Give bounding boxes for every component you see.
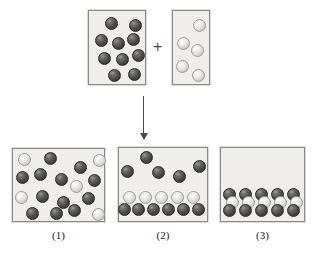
dark-sphere: [36, 190, 49, 203]
dark-sphere: [140, 151, 153, 164]
light-sphere: [18, 153, 31, 166]
dark-sphere: [82, 192, 95, 205]
light-sphere: [177, 37, 190, 50]
dark-sphere: [105, 17, 118, 30]
dark-sphere: [88, 174, 101, 187]
dark-sphere: [34, 168, 47, 181]
dark-sphere: [68, 204, 81, 217]
dark-sphere: [116, 53, 129, 66]
dark-sphere: [162, 203, 175, 216]
dark-sphere: [128, 68, 141, 81]
product-container-3: [220, 147, 305, 222]
caption-2: (2): [118, 229, 208, 241]
caption-1: (1): [12, 229, 105, 241]
dark-sphere: [193, 160, 206, 173]
dark-sphere: [271, 204, 284, 217]
light-sphere: [176, 60, 189, 73]
dark-sphere: [118, 203, 131, 216]
dark-sphere: [223, 204, 236, 217]
dark-sphere: [132, 49, 145, 62]
light-sphere: [155, 191, 168, 204]
dark-sphere: [121, 165, 134, 178]
dark-sphere: [50, 207, 63, 220]
product-container-1: [12, 148, 105, 222]
dark-sphere: [255, 204, 268, 217]
down-arrow-icon: [140, 133, 148, 140]
dark-sphere: [173, 170, 186, 183]
light-sphere: [70, 180, 83, 193]
dark-sphere: [112, 37, 125, 50]
dark-sphere: [98, 52, 111, 65]
dark-sphere: [129, 19, 142, 32]
dark-sphere: [26, 207, 39, 220]
light-sphere: [15, 191, 28, 204]
dark-sphere: [287, 204, 300, 217]
dark-sphere: [55, 173, 68, 186]
dark-sphere: [44, 152, 57, 165]
dark-sphere: [152, 166, 165, 179]
dark-sphere: [177, 203, 190, 216]
dark-sphere: [95, 34, 108, 47]
diagram-canvas: +(1)(2)(3): [0, 0, 316, 259]
light-sphere: [191, 44, 204, 57]
down-arrow-shaft: [143, 96, 144, 134]
light-particle-container: [172, 10, 210, 85]
light-sphere: [193, 19, 206, 32]
plus-operator-icon: +: [153, 39, 162, 55]
dark-sphere: [192, 203, 205, 216]
light-sphere: [93, 154, 106, 167]
dark-particle-container: [88, 10, 146, 85]
dark-sphere: [127, 33, 140, 46]
dark-sphere: [108, 69, 121, 82]
dark-sphere: [147, 203, 160, 216]
light-sphere: [192, 69, 205, 82]
caption-3: (3): [220, 229, 305, 241]
light-sphere: [139, 191, 152, 204]
product-container-2: [118, 147, 208, 222]
dark-sphere: [239, 204, 252, 217]
dark-sphere: [132, 203, 145, 216]
light-sphere: [92, 208, 105, 221]
dark-sphere: [74, 161, 87, 174]
dark-sphere: [16, 171, 29, 184]
